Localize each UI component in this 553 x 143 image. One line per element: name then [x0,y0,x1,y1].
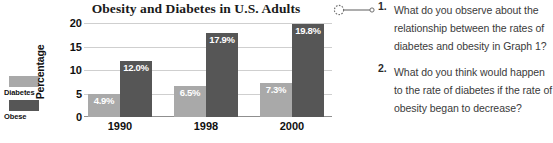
bar-value-diabetes-1998: 6.5% [174,87,206,98]
bar-value-diabetes-2000: 7.3% [260,84,292,95]
bar-group-1998: 6.5% 17.9% 1998 [174,23,238,117]
y-axis-label: Percentage [33,30,47,114]
bar-value-obese-2000: 19.8% [292,25,324,36]
x-tick-1998: 1998 [174,120,238,132]
y-tick-10: 10 [60,64,82,76]
worksheet-figure: Obesity and Diabetes in U.S. Adults Diab… [0,0,553,143]
y-axis-label-text: Percentage [34,45,46,100]
question-text-1: What do you observe about the relationsh… [394,4,547,52]
bar-diabetes-2000[interactable]: 7.3% [260,83,292,117]
callout-connector-icon [333,2,378,18]
question-item-1: 1. What do you observe about the relatio… [378,0,553,54]
question-item-2: 2. What do you think would happen to the… [378,62,553,116]
bar-diabetes-1998[interactable]: 6.5% [174,86,206,117]
y-axis-ticks: 20 15 10 5 0 [56,23,82,117]
y-tick-15: 15 [60,41,82,53]
plot-area: 4.9% 12.0% 1990 6.5% 17.9% 1998 [84,23,332,117]
questions-panel: 1. What do you observe about the relatio… [378,0,553,143]
bar-group-1990: 4.9% 12.0% 1990 [88,23,152,117]
bar-value-obese-1998: 17.9% [206,34,238,45]
question-number-1: 1. [378,0,387,12]
bar-diabetes-1990[interactable]: 4.9% [88,94,120,117]
bar-obese-2000[interactable]: 19.8% [292,24,324,117]
x-tick-2000: 2000 [260,120,324,132]
chart-title: Obesity and Diabetes in U.S. Adults [60,1,332,17]
y-tick-20: 20 [60,17,82,29]
bar-value-obese-1990: 12.0% [120,62,152,73]
bar-obese-1998[interactable]: 17.9% [206,33,238,117]
question-number-2: 2. [378,62,387,74]
y-tick-0: 0 [60,111,82,123]
bar-chart-panel: Obesity and Diabetes in U.S. Adults Diab… [0,0,368,143]
y-tick-5: 5 [60,88,82,100]
bar-value-diabetes-1990: 4.9% [88,95,120,106]
bar-group-2000: 7.3% 19.8% 2000 [260,23,324,117]
bar-obese-1990[interactable]: 12.0% [120,61,152,117]
question-text-2: What do you think would happen to the ra… [394,66,552,114]
x-tick-1990: 1990 [88,120,152,132]
